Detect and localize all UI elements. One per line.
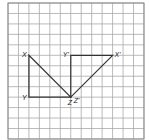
point-label-y: Y bbox=[22, 94, 28, 101]
point-label-xp: X' bbox=[114, 51, 122, 58]
point-label-zp: Z' bbox=[73, 97, 80, 104]
point-label-z: Z bbox=[67, 99, 73, 106]
point-label-yp: Y' bbox=[63, 51, 70, 58]
transformation-grid-diagram: XYZZ'Y'X' bbox=[0, 0, 149, 140]
point-label-x: X bbox=[21, 51, 27, 58]
